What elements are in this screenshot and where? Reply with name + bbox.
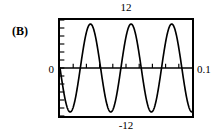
panel-label: (B) bbox=[12, 24, 52, 38]
axis-label-bottom: -12 bbox=[58, 119, 194, 132]
plot-frame bbox=[58, 18, 194, 118]
plot-canvas bbox=[60, 20, 192, 116]
axis-label-top: 12 bbox=[58, 1, 194, 14]
figure-panel-b: (B) 12 -12 0 0.1 bbox=[0, 0, 223, 136]
axis-label-left: 0 bbox=[34, 63, 54, 76]
axis-label-right: 0.1 bbox=[197, 63, 223, 76]
